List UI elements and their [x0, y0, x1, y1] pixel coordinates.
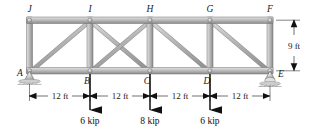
- load-label-C: 8 kip: [140, 116, 160, 126]
- joint-pin-G: [208, 18, 212, 22]
- dimension-label-12ft-1: 12 ft: [52, 91, 69, 101]
- member-G-E: [210, 19, 270, 75]
- joint-label-I: I: [87, 4, 92, 14]
- member-B-I: [87, 17, 93, 73]
- dimension-segment-3: 12 ft: [150, 91, 210, 101]
- joint-pin-J: [27, 18, 31, 22]
- joint-label-G: G: [207, 4, 214, 14]
- member-E-F: [267, 17, 273, 73]
- truss-members: [27, 17, 274, 75]
- figure-canvas: J I H G F A B C D E 9 ft 12 ft: [0, 0, 319, 138]
- joint-pin-F: [268, 18, 272, 22]
- dimension-label-12ft-3: 12 ft: [172, 91, 189, 101]
- joint-pin-C: [148, 69, 152, 73]
- dimension-label-12ft-4: 12 ft: [232, 91, 249, 101]
- dimension-segment-2: 12 ft: [90, 91, 150, 101]
- joint-pin-H: [148, 18, 152, 22]
- member-A-I: [30, 19, 90, 75]
- member-H-D: [150, 19, 210, 75]
- dimension-vertical-9ft: 9 ft: [276, 20, 301, 71]
- joint-pin-I: [88, 18, 92, 22]
- joint-pin-B: [88, 69, 92, 73]
- joint-label-A: A: [16, 68, 23, 78]
- load-label-D: 6 kip: [200, 116, 220, 126]
- member-A-J: [27, 17, 33, 73]
- dimension-label-12ft-2: 12 ft: [112, 91, 129, 101]
- joint-label-F: F: [266, 4, 273, 14]
- joint-label-B: B: [84, 76, 90, 86]
- joint-pin-D: [208, 69, 212, 73]
- dimension-label-9ft: 9 ft: [288, 41, 301, 51]
- load-label-B: 6 kip: [80, 116, 100, 126]
- dimension-segment-4: 12 ft: [210, 91, 270, 101]
- member-D-G: [207, 17, 213, 73]
- truss-diagram: J I H G F A B C D E 9 ft 12 ft: [0, 0, 319, 138]
- dimension-segment-1: 12 ft: [30, 91, 91, 101]
- load-arrows: 6 kip 8 kip 6 kip: [80, 74, 220, 126]
- member-C-H: [147, 17, 153, 73]
- joint-label-J: J: [27, 4, 32, 14]
- joint-label-H: H: [146, 4, 155, 14]
